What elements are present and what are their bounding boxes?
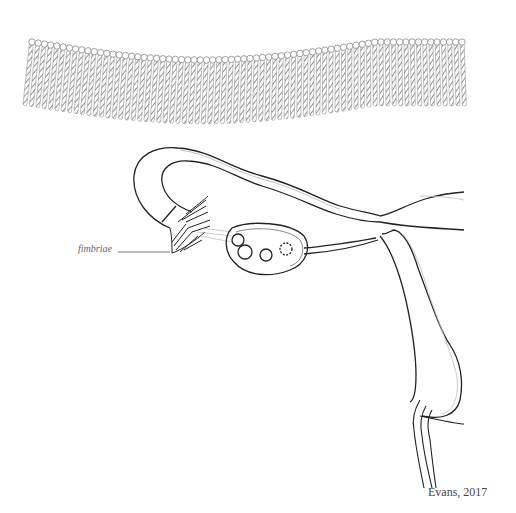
diagram-canvas: fimbriae Evans, 2017 — [0, 0, 516, 513]
cilia-band — [23, 39, 466, 124]
fimbriae-label: fimbriae — [78, 243, 112, 254]
credit-text: Evans, 2017 — [428, 485, 487, 500]
fallopian-tube — [134, 148, 380, 228]
ovary — [226, 223, 378, 274]
uterus — [380, 192, 464, 417]
anatomy-drawing — [0, 0, 516, 513]
cervix-vagina — [413, 400, 464, 488]
fimbriae — [170, 196, 232, 253]
